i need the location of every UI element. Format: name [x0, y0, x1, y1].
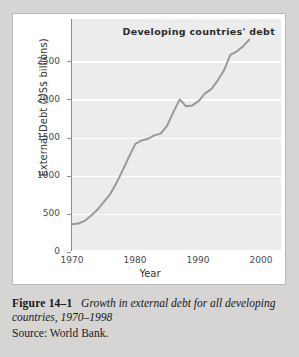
x-tick-label-1990: 1990 — [178, 255, 218, 265]
figure-number-label: Figure 14–1 — [12, 297, 72, 309]
debt-line-path — [72, 40, 249, 225]
figure-caption: Figure 14–1 Growth in external debt for … — [12, 296, 282, 340]
y-axis-line — [71, 19, 72, 251]
debt-line-series — [72, 19, 281, 250]
plot-area: Developing countries' debt — [72, 19, 281, 250]
y-tick-mark-2000 — [67, 99, 71, 100]
x-tick-label-1970: 1970 — [52, 255, 92, 265]
y-tick-mark-500 — [67, 214, 71, 215]
x-tick-label-1980: 1980 — [115, 255, 155, 265]
figure-source-text: Source: World Bank. — [12, 326, 282, 340]
figure-page: Developing countries' debt 2500 2000 150… — [0, 0, 299, 357]
y-axis-title: External Debt (US$ billions) — [38, 28, 49, 188]
x-axis-title: Year — [13, 268, 287, 279]
y-tick-mark-0 — [67, 252, 71, 253]
y-tick-mark-1500 — [67, 138, 71, 139]
y-tick-mark-2500 — [67, 61, 71, 62]
y-tick-mark-1000 — [67, 176, 71, 177]
y-tick-label-500: 500 — [28, 208, 60, 218]
x-tick-label-2000: 2000 — [241, 255, 281, 265]
chart-card: Developing countries' debt 2500 2000 150… — [12, 13, 286, 285]
